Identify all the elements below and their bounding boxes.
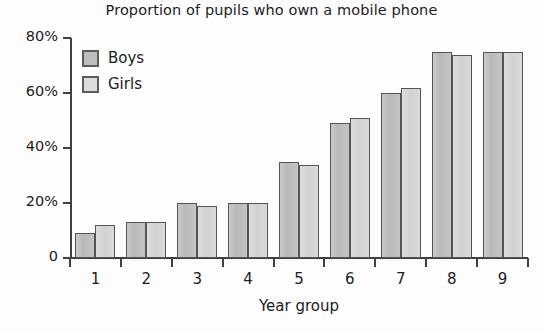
y-axis-tick-label: 40% [0,139,58,154]
x-axis-tick-label: 9 [483,270,523,288]
bar-boys-year-1 [75,233,95,258]
x-axis-tick-label: 2 [126,270,166,288]
x-axis-tick [69,258,71,267]
bar-girls-year-2 [146,222,166,258]
x-axis-tick-label: 7 [381,270,421,288]
bar-boys-year-5 [279,162,299,258]
bar-boys-year-3 [177,203,197,258]
x-axis-tick-label: 4 [228,270,268,288]
bar-boys-year-7 [381,93,401,258]
x-axis-tick-label: 6 [330,270,370,288]
x-axis-tick-label: 5 [279,270,319,288]
x-axis-tick [222,258,224,267]
bar-boys-year-2 [126,222,146,258]
bar-boys-year-4 [228,203,248,258]
x-axis-tick [527,258,529,267]
x-axis-tick [120,258,122,267]
y-axis-tick-label: 60% [0,84,58,99]
y-axis-tick-label: 80% [0,29,58,44]
x-axis-tick [323,258,325,267]
bar-girls-year-1 [95,225,115,258]
legend-label-boys: Boys [108,49,144,67]
x-axis-tick-label: 1 [75,270,115,288]
bar-girls-year-7 [401,88,421,259]
bar-boys-year-6 [330,123,350,258]
bar-girls-year-9 [503,52,523,258]
x-axis-tick [171,258,173,267]
y-axis-tick [63,202,71,204]
y-axis-tick [63,37,71,39]
y-axis-tick [63,147,71,149]
chart-legend: Boys Girls [82,45,144,97]
bar-girls-year-4 [248,203,268,258]
chart-container: Proportion of pupils who own a mobile ph… [0,0,543,332]
legend-swatch-girls-icon [82,76,99,93]
bar-girls-year-6 [350,118,370,258]
y-axis-tick-label: 0 [0,249,58,264]
x-axis-tick [425,258,427,267]
y-axis-tick-label: 20% [0,194,58,209]
legend-swatch-boys-icon [82,50,99,67]
bar-boys-year-8 [432,52,452,258]
bar-girls-year-5 [299,165,319,259]
x-axis-tick-label: 3 [177,270,217,288]
legend-label-girls: Girls [108,75,142,93]
x-axis-tick [374,258,376,267]
x-axis-tick [476,258,478,267]
x-axis-tick [273,258,275,267]
bar-boys-year-9 [483,52,503,258]
legend-item-girls: Girls [82,71,144,97]
x-axis-title: Year group [70,297,528,315]
x-axis-tick-label: 8 [432,270,472,288]
y-axis-tick [63,92,71,94]
legend-item-boys: Boys [82,45,144,71]
bar-girls-year-3 [197,206,217,258]
bar-girls-year-8 [452,55,472,259]
